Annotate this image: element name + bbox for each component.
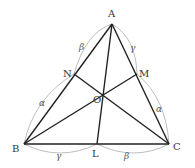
segment-label-MC: α: [156, 104, 162, 114]
segment-label-AN: β: [78, 42, 84, 52]
segment-label-BL: γ: [56, 151, 62, 161]
segment-label-NB: α: [39, 98, 45, 108]
triangle-diagram: A B C L M N O β α γ α γ β: [0, 0, 195, 168]
label-A: A: [107, 8, 116, 19]
arc-LC: [97, 144, 169, 153]
cevian-CN: [74, 74, 169, 144]
label-O: O: [93, 94, 101, 105]
segment-label-LC: β: [123, 151, 129, 161]
segment-label-AM: γ: [130, 43, 136, 53]
label-N: N: [63, 68, 72, 79]
cevian-BM: [24, 74, 137, 144]
label-L: L: [92, 148, 99, 159]
label-B: B: [12, 143, 19, 154]
label-C: C: [173, 141, 181, 152]
label-M: M: [139, 68, 149, 79]
